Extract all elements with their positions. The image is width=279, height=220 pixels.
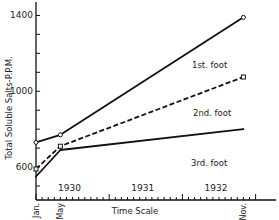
series-line-1 bbox=[36, 17, 243, 142]
series-line-3 bbox=[36, 129, 243, 176]
y-tick-label: 1400 bbox=[10, 10, 33, 20]
x-year-label: 1930 bbox=[58, 183, 81, 193]
x-year-label: 1931 bbox=[131, 183, 154, 193]
data-point bbox=[243, 128, 245, 130]
x-month-label: Nov. bbox=[239, 203, 248, 220]
x-month-label: Jan. bbox=[32, 203, 41, 219]
data-point bbox=[241, 15, 245, 19]
data-point bbox=[35, 176, 37, 178]
salts-line-chart: 60010001400 193019311932Jan.MayNov. Tota… bbox=[0, 0, 279, 220]
y-tick-label: 600 bbox=[16, 162, 33, 172]
y-axis-title: Total Soluble Salts-P.P.M. bbox=[4, 56, 14, 160]
x-year-label: 1932 bbox=[204, 183, 227, 193]
data-point bbox=[58, 144, 62, 148]
data-point bbox=[34, 140, 38, 144]
data-point bbox=[241, 75, 245, 79]
series-line-2 bbox=[36, 77, 243, 169]
data-point bbox=[58, 133, 62, 137]
series-label-1st-foot: 1st. foot bbox=[192, 60, 228, 70]
series-label-3rd-foot: 3rd. foot bbox=[191, 158, 228, 168]
series-lines bbox=[36, 17, 243, 176]
x-month-label: May bbox=[56, 203, 65, 220]
series-markers bbox=[34, 15, 245, 177]
x-axis-title: Time Scale bbox=[111, 206, 158, 216]
data-point bbox=[34, 167, 38, 171]
data-point bbox=[60, 149, 62, 151]
series-label-2nd-foot: 2nd. foot bbox=[193, 108, 232, 118]
